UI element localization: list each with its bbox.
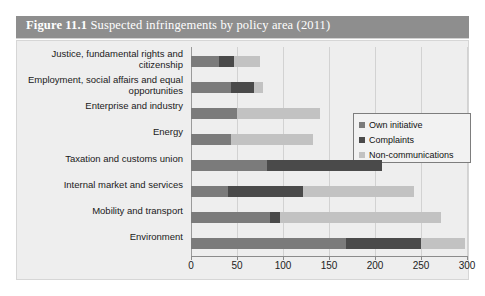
bar-stack[interactable] — [191, 212, 441, 223]
bar-segment-own[interactable] — [191, 238, 346, 249]
bar-segment-noncomm[interactable] — [421, 238, 465, 249]
legend-item[interactable]: Own initiative — [359, 117, 466, 132]
gridline-0 — [191, 47, 192, 256]
category-label: Enterprise and industry — [15, 101, 183, 112]
x-tick-label-100: 100 — [275, 260, 292, 271]
bar-segment-noncomm[interactable] — [234, 56, 260, 67]
x-tick-label-200: 200 — [367, 260, 384, 271]
figure-caption: Suspected infringements by policy area (… — [90, 18, 330, 32]
bar-stack[interactable] — [191, 186, 414, 197]
figure-container: Figure 11.1 Suspected infringements by p… — [0, 0, 485, 296]
bar-segment-own[interactable] — [191, 108, 237, 119]
chart-legend: Own initiativeComplaintsNon-communicatio… — [353, 113, 471, 163]
bar-segment-own[interactable] — [191, 160, 267, 171]
x-tick-label-300: 300 — [459, 260, 476, 271]
category-label: Justice, fundamental rights and citizens… — [15, 49, 183, 70]
x-tick-label-50: 50 — [231, 260, 242, 271]
legend-label: Complaints — [369, 135, 414, 145]
x-tick-label-250: 250 — [413, 260, 430, 271]
bar-stack[interactable] — [191, 108, 320, 119]
legend-swatch-noncomm — [359, 152, 365, 158]
gridline-100 — [283, 47, 284, 256]
bar-segment-complaints[interactable] — [346, 238, 421, 249]
bar-segment-own[interactable] — [191, 82, 231, 93]
bar-stack[interactable] — [191, 238, 465, 249]
category-label: Energy — [15, 127, 183, 138]
bar-segment-complaints[interactable] — [267, 160, 382, 171]
bar-segment-complaints[interactable] — [231, 82, 254, 93]
category-label: Taxation and customs union — [15, 154, 183, 165]
bar-stack[interactable] — [191, 82, 263, 93]
category-label: Environment — [15, 232, 183, 243]
legend-swatch-complaints — [359, 137, 365, 143]
bar-segment-own[interactable] — [191, 212, 270, 223]
bar-segment-complaints[interactable] — [219, 56, 235, 67]
bar-segment-complaints[interactable] — [228, 186, 303, 197]
bar-segment-noncomm[interactable] — [254, 82, 263, 93]
bar-segment-noncomm[interactable] — [303, 186, 413, 197]
bar-stack[interactable] — [191, 134, 313, 145]
category-label: Internal market and services — [15, 180, 183, 191]
bar-segment-own[interactable] — [191, 134, 231, 145]
bar-segment-own[interactable] — [191, 186, 228, 197]
bar-stack[interactable] — [191, 56, 260, 67]
figure-title-band: Figure 11.1 Suspected infringements by p… — [16, 16, 469, 38]
legend-label: Non-communications — [369, 150, 454, 160]
figure-number: Figure 11.1 — [26, 18, 87, 32]
gridline-150 — [329, 47, 330, 256]
figure-title: Figure 11.1 Suspected infringements by p… — [26, 18, 330, 33]
legend-swatch-own — [359, 122, 365, 128]
category-label: Employment, social affairs and equal opp… — [15, 75, 183, 96]
legend-item[interactable]: Complaints — [359, 132, 466, 147]
bar-stack[interactable] — [191, 160, 382, 171]
x-tick-label-150: 150 — [321, 260, 338, 271]
x-tick-label-0: 0 — [188, 260, 194, 271]
gridline-50 — [237, 47, 238, 256]
bar-segment-noncomm[interactable] — [237, 108, 320, 119]
bar-segment-complaints[interactable] — [270, 212, 280, 223]
bar-segment-own[interactable] — [191, 56, 219, 67]
legend-label: Own initiative — [369, 120, 423, 130]
category-label: Mobility and transport — [15, 206, 183, 217]
chart-panel: Own initiativeComplaintsNon-communicatio… — [16, 40, 469, 280]
bar-segment-noncomm[interactable] — [231, 134, 314, 145]
bar-segment-noncomm[interactable] — [280, 212, 441, 223]
